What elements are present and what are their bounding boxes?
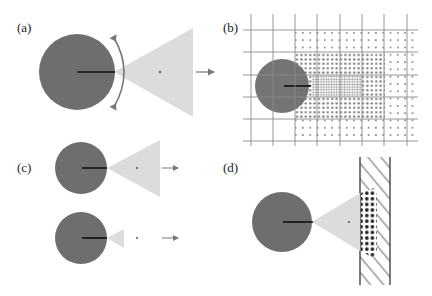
center-dot (348, 221, 350, 223)
dense-sample-region (312, 75, 362, 97)
arc-arrowhead-top-icon (110, 34, 120, 43)
panel-a: (a) (17, 20, 214, 117)
panel-c-label: (c) (17, 160, 31, 175)
panel-b: (b) (223, 14, 418, 146)
cone (312, 193, 360, 251)
diagram-canvas: (a) (b) (0, 0, 432, 296)
cone-wide (107, 140, 160, 197)
panel-b-label: (b) (223, 20, 238, 35)
panel-c: (c) (17, 140, 178, 264)
cone-wide (114, 28, 193, 117)
center-dot (136, 237, 138, 239)
center-dot (136, 167, 138, 169)
arc-arrowhead-bottom-icon (110, 102, 120, 111)
center-dot (159, 71, 161, 73)
hit-sample-dots (361, 188, 377, 258)
panel-d-label: (d) (223, 160, 238, 175)
panel-d: (d) (223, 157, 390, 285)
panel-a-label: (a) (17, 20, 31, 35)
cone-narrow (107, 229, 124, 248)
